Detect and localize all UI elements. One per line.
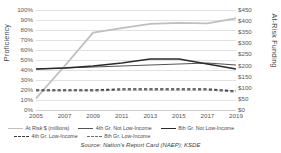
legend-item-label: 8th Gr. Not Low-Income [178,125,234,131]
y-tick-left: 40% [21,67,33,73]
x-tick: 2019 [229,112,243,119]
y-tick-right: $250 [238,51,252,57]
y-tick-right: $300 [238,40,252,46]
legend-item[interactable]: 8th Gr. Low-Income [87,133,151,139]
x-tick: 2009 [86,112,100,119]
x-tick: 2015 [172,112,186,119]
legend-swatch-icon [161,128,176,129]
y-tick-right: $50 [238,96,248,102]
legend-swatch-icon [87,136,102,137]
y-tick-right: $150 [238,74,252,80]
legend-item-label: 4th Gr. Not Low-Income [96,125,152,131]
y-tick-left: 100% [17,7,33,13]
y-tick-right: $100 [238,85,252,91]
series-lines [36,10,236,110]
gridline [36,110,236,111]
legend-swatch-icon [14,136,29,137]
x-tick: 2007 [58,112,72,119]
y-tick-right: $200 [238,63,252,69]
legend-swatch-icon [78,128,93,129]
x-axis-ticks: 20052007200920112013201520172019 [36,112,236,123]
x-tick: 2013 [143,112,157,119]
legend-item[interactable]: 4th Gr. Low-Income [14,133,78,139]
x-tick: 2017 [201,112,215,119]
y-tick-left: 20% [21,87,33,93]
y-tick-left: 70% [21,37,33,43]
legend-item[interactable]: 8th Gr. Not Low-Income [161,125,234,131]
legend-row-1: At Risk $ (millions)4th Gr. Not Low-Inco… [8,124,276,132]
x-tick: 2011 [115,112,128,119]
x-tick: 2005 [29,112,43,119]
y-tick-right: $350 [238,29,252,35]
legend-item[interactable]: At Risk $ (millions) [8,125,69,131]
legend-item-label: At Risk $ (millions) [26,125,70,131]
legend-row-2: 4th Gr. Low-Income8th Gr. Low-Income [8,132,276,140]
chart-container: Proficiency At-Risk Funding 0%10%20%30%4… [0,0,281,153]
y-tick-right: $400 [238,18,252,24]
chart-legend: At Risk $ (millions)4th Gr. Not Low-Inco… [8,124,276,140]
y-tick-left: 30% [21,77,33,83]
y-tick-left: 60% [21,47,33,53]
plot-area [36,10,236,110]
legend-item-label: 8th Gr. Low-Income [104,133,150,139]
legend-item[interactable]: 4th Gr. Not Low-Income [78,125,151,131]
y-tick-left: 80% [21,27,33,33]
series-line [36,18,236,98]
legend-swatch-icon [8,128,23,129]
y-tick-right: $450 [238,7,252,13]
y-tick-left: 10% [21,97,33,103]
y-tick-left: 90% [21,17,33,23]
y-tick-left: 50% [21,57,33,63]
y-axis-title-right: At-Risk Funding [270,12,279,70]
source-note: Source: Nation's Report Card (NAEP); KSD… [0,142,281,148]
legend-item-label: 4th Gr. Low-Income [32,133,78,139]
